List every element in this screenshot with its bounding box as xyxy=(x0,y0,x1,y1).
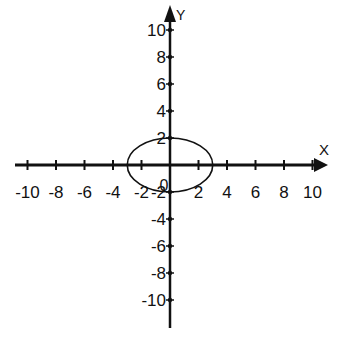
x-tick-label: 8 xyxy=(279,183,288,202)
axes: XY xyxy=(15,5,329,328)
x-tick-label: 6 xyxy=(251,183,260,202)
x-tick-label: -6 xyxy=(77,183,92,202)
x-axis-arrow-icon xyxy=(314,158,328,172)
y-tick-label: 8 xyxy=(157,48,166,67)
y-tick-label: -6 xyxy=(151,237,166,256)
x-tick-label: -10 xyxy=(15,183,40,202)
x-axis-label: X xyxy=(319,141,329,158)
y-tick-label: -8 xyxy=(151,264,166,283)
x-tick-label: 4 xyxy=(222,183,231,202)
x-tick-label: -4 xyxy=(105,183,120,202)
y-tick-label: -10 xyxy=(141,291,166,310)
y-axis-arrow-icon xyxy=(164,5,176,22)
coordinate-plane: XY -10-8-6-4-2246810108642-2-4-6-8-100 xyxy=(0,0,340,349)
x-tick-label: 10 xyxy=(303,183,322,202)
y-tick-label: 4 xyxy=(157,102,166,121)
x-tick-label: -8 xyxy=(48,183,63,202)
y-tick-label: 6 xyxy=(157,75,166,94)
y-axis-label: Y xyxy=(176,7,186,23)
y-tick-label: -4 xyxy=(151,210,166,229)
y-tick-label: 10 xyxy=(147,21,166,40)
